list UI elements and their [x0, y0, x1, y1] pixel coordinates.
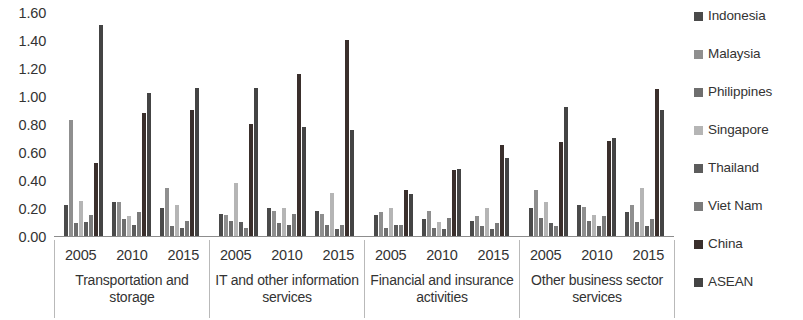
- sector-axis-cell: 200520102015IT and other information ser…: [210, 240, 365, 318]
- year-label: 2015: [168, 247, 199, 263]
- category-axis-table: 200520102015Transportation and storage20…: [54, 240, 675, 318]
- year-label: 2010: [426, 247, 457, 263]
- bar-china-2015: [500, 145, 504, 236]
- bar-singapore-2015: [175, 205, 179, 236]
- bar-viet-nam-2005: [399, 225, 403, 236]
- bar-philippines-2005: [539, 218, 543, 236]
- legend-item-malaysia[interactable]: Malaysia: [694, 46, 760, 62]
- legend-swatch-icon: [694, 88, 703, 97]
- bar-indonesia-2015: [625, 212, 629, 236]
- year-label: 2005: [65, 247, 96, 263]
- sector-axis-cell: 200520102015Financial and insurance acti…: [365, 240, 520, 318]
- year-bar-cluster: [215, 8, 263, 236]
- bar-philippines-2010: [122, 219, 126, 236]
- bar-singapore-2010: [282, 208, 286, 236]
- sector-label: Other business sector services: [520, 272, 674, 306]
- bar-thailand-2010: [132, 225, 136, 236]
- legend-label: Viet Nam: [708, 199, 762, 213]
- bar-malaysia-2010: [117, 202, 121, 236]
- sector-label: Transportation and storage: [55, 272, 209, 306]
- bar-singapore-2015: [640, 188, 644, 236]
- legend-item-philippines[interactable]: Philippines: [694, 84, 772, 100]
- legend-label: Singapore: [708, 123, 769, 137]
- bar-viet-nam-2015: [340, 225, 344, 236]
- y-axis-tick-label: 1.00: [0, 90, 46, 104]
- bar-singapore-2005: [389, 208, 393, 236]
- bar-malaysia-2005: [224, 215, 228, 236]
- bar-indonesia-2005: [529, 208, 533, 236]
- sector-axis-cell: 200520102015Other business sector servic…: [520, 240, 675, 318]
- sector-bar-group: [209, 8, 364, 236]
- legend-item-singapore[interactable]: Singapore: [694, 122, 769, 138]
- bar-philippines-2015: [480, 226, 484, 236]
- bar-malaysia-2005: [379, 212, 383, 236]
- bar-asean-2010: [302, 127, 306, 236]
- legend-item-china[interactable]: China: [694, 236, 743, 252]
- year-label: 2010: [116, 247, 147, 263]
- legend-label: Indonesia: [708, 9, 766, 23]
- bar-asean-2010: [147, 93, 151, 236]
- sector-bar-group: [364, 8, 519, 236]
- sector-label: Financial and insurance activities: [365, 272, 519, 306]
- year-label: 2010: [581, 247, 612, 263]
- legend-swatch-icon: [694, 278, 703, 287]
- legend-swatch-icon: [694, 126, 703, 135]
- bar-philippines-2005: [384, 228, 388, 236]
- bar-asean-2005: [564, 107, 568, 236]
- bar-viet-nam-2015: [185, 221, 189, 236]
- bar-malaysia-2015: [475, 216, 479, 236]
- year-bar-cluster: [620, 8, 668, 236]
- bar-chart-figure: 1.601.401.201.000.800.600.400.200.00 200…: [0, 0, 803, 320]
- year-bar-cluster: [310, 8, 358, 236]
- bar-china-2010: [607, 141, 611, 236]
- bar-indonesia-2010: [112, 202, 116, 236]
- legend-item-asean[interactable]: ASEAN: [694, 274, 753, 290]
- bar-asean-2015: [660, 110, 664, 236]
- year-bar-cluster: [465, 8, 513, 236]
- bar-thailand-2015: [335, 229, 339, 236]
- y-axis-tick-label: 1.20: [0, 62, 46, 76]
- bar-indonesia-2015: [315, 211, 319, 236]
- legend-item-indonesia[interactable]: Indonesia: [694, 8, 766, 24]
- year-label: 2005: [220, 247, 251, 263]
- bar-indonesia-2005: [219, 214, 223, 236]
- bar-malaysia-2005: [69, 120, 73, 236]
- bar-asean-2015: [505, 158, 509, 236]
- legend-swatch-icon: [694, 164, 703, 173]
- bar-thailand-2015: [490, 229, 494, 236]
- legend-swatch-icon: [694, 50, 703, 59]
- bar-thailand-2005: [239, 222, 243, 236]
- bar-china-2005: [249, 124, 253, 236]
- bar-indonesia-2015: [160, 208, 164, 236]
- bar-singapore-2010: [127, 216, 131, 236]
- bar-malaysia-2015: [320, 214, 324, 236]
- bar-thailand-2010: [442, 229, 446, 236]
- year-label: 2005: [530, 247, 561, 263]
- bar-china-2005: [404, 190, 408, 236]
- bar-viet-nam-2015: [495, 223, 499, 236]
- bar-china-2010: [142, 113, 146, 236]
- year-bar-cluster: [60, 8, 108, 236]
- bar-singapore-2015: [485, 208, 489, 236]
- legend-item-viet-nam[interactable]: Viet Nam: [694, 198, 762, 214]
- legend-swatch-icon: [694, 202, 703, 211]
- year-bar-cluster: [108, 8, 156, 236]
- bar-malaysia-2010: [582, 207, 586, 236]
- y-axis-tick-label: 0.20: [0, 202, 46, 216]
- bar-malaysia-2015: [165, 188, 169, 236]
- year-label: 2015: [633, 247, 664, 263]
- bar-singapore-2005: [234, 183, 238, 236]
- legend-label: Malaysia: [708, 47, 760, 61]
- legend-item-thailand[interactable]: Thailand: [694, 160, 759, 176]
- bar-philippines-2010: [432, 228, 436, 236]
- bar-china-2015: [190, 110, 194, 236]
- year-label: 2015: [323, 247, 354, 263]
- legend-label: Thailand: [708, 161, 759, 175]
- y-axis-tick-label: 0.80: [0, 118, 46, 132]
- bar-thailand-2015: [645, 226, 649, 236]
- bar-thailand-2010: [287, 225, 291, 236]
- bar-singapore-2010: [437, 222, 441, 236]
- year-label: 2015: [478, 247, 509, 263]
- year-label-row: 200520102015: [365, 242, 519, 268]
- year-label: 2010: [271, 247, 302, 263]
